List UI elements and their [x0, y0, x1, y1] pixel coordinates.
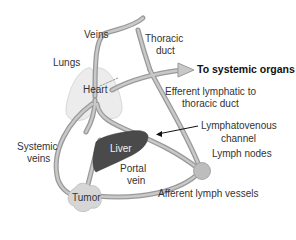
- label-lymphatovenous-1: Lymphatovenous: [201, 120, 277, 131]
- lymph-node-shape: [194, 163, 211, 180]
- arrow-to-systemic-organs: [178, 63, 194, 77]
- label-thoracic-duct-1: Thoracic: [145, 33, 183, 44]
- label-veins: Veins: [84, 29, 108, 40]
- lymphatovenous-pointer: [156, 126, 198, 137]
- label-to-systemic-organs: To systemic organs: [197, 64, 295, 75]
- label-portal-vein-2: vein: [127, 175, 145, 186]
- label-systemic-veins-2: veins: [27, 153, 50, 164]
- label-heart: Heart: [83, 84, 107, 95]
- label-tumor: Tumor: [72, 192, 101, 203]
- label-liver: Liver: [110, 143, 132, 154]
- label-efferent-1: Efferent lymphatic to: [165, 86, 256, 97]
- label-efferent-2: thoracic duct: [182, 98, 239, 109]
- label-portal-vein-1: Portal: [120, 163, 146, 174]
- label-lymphatovenous-2: channel: [221, 133, 256, 144]
- label-afferent-lymph-vessels: Afferent lymph vessels: [158, 188, 258, 199]
- label-systemic-veins-1: Systemic: [17, 141, 58, 152]
- label-lungs: Lungs: [53, 57, 80, 68]
- label-lymph-nodes: Lymph nodes: [212, 148, 272, 159]
- label-thoracic-duct-2: duct: [156, 45, 175, 56]
